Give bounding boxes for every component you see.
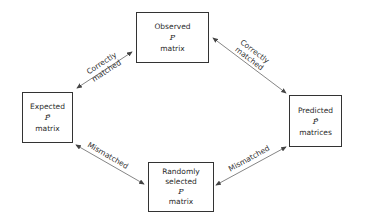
node-random-matrix: Randomly selected P matrix bbox=[148, 162, 214, 212]
p-tilde-symbol: P̃ bbox=[45, 112, 50, 123]
p-symbol: P bbox=[178, 187, 183, 197]
p-symbol: P bbox=[170, 32, 175, 43]
node-observed-matrix: Observed P matrix bbox=[136, 12, 209, 63]
node-random-subtitle: matrix bbox=[169, 197, 193, 207]
node-expected-matrix: Expected P̃ matrix bbox=[22, 92, 73, 143]
node-random-title: Randomly bbox=[162, 167, 200, 177]
node-predicted-title: Predicted bbox=[298, 105, 333, 116]
node-expected-title: Expected bbox=[30, 101, 65, 112]
node-predicted-matrices: Predicted P̂ matrices bbox=[289, 95, 342, 147]
node-observed-subtitle: matrix bbox=[160, 43, 184, 54]
node-random-title-2: selected bbox=[165, 177, 197, 187]
p-hat-symbol: P̂ bbox=[313, 116, 318, 127]
node-observed-title: Observed bbox=[154, 21, 190, 32]
node-predicted-subtitle: matrices bbox=[299, 127, 332, 138]
node-expected-subtitle: matrix bbox=[35, 123, 59, 134]
